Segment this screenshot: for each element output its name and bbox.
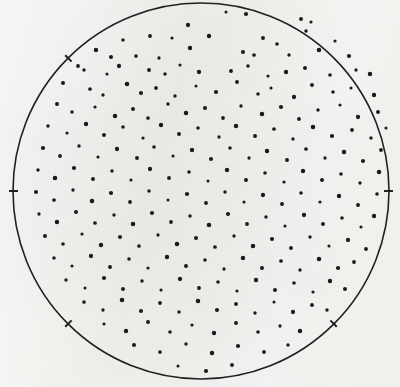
scatter-point [89,254,93,258]
scatter-point [298,329,302,333]
scatter-point [251,244,256,249]
scatter-point [105,72,108,75]
scatter-point [244,178,248,182]
scatter-point [270,237,274,241]
scatter-point [323,156,326,159]
scatter-point [212,331,216,335]
scatter-point [124,329,128,333]
scatter-point [236,344,240,348]
scatter-point [109,55,113,59]
scatter-point [135,156,139,160]
scatter-point [184,342,187,345]
scatter-point [352,260,356,264]
scatter-point [252,53,256,57]
scatter-point [299,17,303,21]
scatter-point [178,63,181,66]
scatter-point [297,117,301,121]
scatter-point [197,286,201,290]
scatter-point [91,177,95,181]
scatter-point [165,255,169,259]
scatter-point [184,264,188,268]
scatter-point [77,144,81,148]
scatter-point [222,267,225,270]
scatter-point [46,124,50,128]
scatter-point [41,146,45,150]
scatter-point [131,107,135,111]
scatter-point [158,350,162,354]
scatter-point [310,303,314,307]
scatter-point [230,363,234,367]
scatter-point [203,258,207,262]
scatter-point [262,350,266,354]
scatter-point [349,86,352,89]
scatter-point [108,265,112,269]
scatter-point [139,309,143,313]
scatter-point [188,46,193,51]
scatter-point [256,92,259,95]
scatter-point [356,203,360,207]
scatter-point [317,257,322,262]
scatter-point [273,288,277,292]
scatter-point [346,238,350,242]
scatter-point [55,220,59,224]
scatter-point [146,320,150,324]
scatter-point [215,308,219,312]
scatter-point [225,168,229,172]
scatter-point [156,233,159,236]
scatter-point [166,102,169,105]
scatter-point [101,308,104,311]
scatter-point [70,264,73,267]
scatter-point [184,111,189,116]
scatter-point [303,66,307,70]
scatter-point [284,70,288,74]
scatter-point [71,188,74,191]
scatter-point [292,281,296,285]
scatter-point [339,172,343,176]
scatter-point [232,234,235,237]
scatter-point [134,54,138,58]
scatter-point [327,244,330,247]
scatter-point [234,124,238,128]
scatter-point [204,201,208,205]
scatter-point [102,276,106,280]
scatter-point [213,245,217,249]
scatter-point [221,116,225,120]
scatter-point [214,90,218,94]
scatter-point [96,155,99,158]
scatter-point [376,110,380,114]
scatter-point [148,34,152,38]
scatter-point [287,53,290,56]
scatter-point [328,73,332,77]
scatter-point [223,190,227,194]
scatter-point [94,48,98,52]
scatter-point [304,29,307,32]
scatter-point [178,277,182,281]
scatter-point [292,95,296,99]
scatter-point [379,148,383,152]
scatter-point [80,232,83,235]
scatter-point [147,189,150,192]
scatter-point [93,221,97,225]
scatter-point [112,213,115,216]
scatter-point [148,167,152,171]
scatter-point [43,234,47,238]
scatter-point [241,50,245,54]
scatter-point [197,70,201,74]
scatter-point [109,191,113,195]
scatter-point [65,131,68,134]
scatter-point [152,145,156,149]
scatter-point [146,266,149,269]
scatter-point [102,133,106,137]
scatter-field [0,0,400,387]
scatter-point [291,310,295,314]
scatter-point [260,112,265,117]
scatter-point [121,125,125,129]
scatter-point [84,122,88,126]
scatter-point [110,169,113,172]
scatter-point [120,298,125,303]
scatter-point [206,179,209,182]
scatter-point [99,243,103,247]
scatter-point [340,216,344,220]
scatter-point [260,266,264,270]
scatter-point [310,83,314,87]
